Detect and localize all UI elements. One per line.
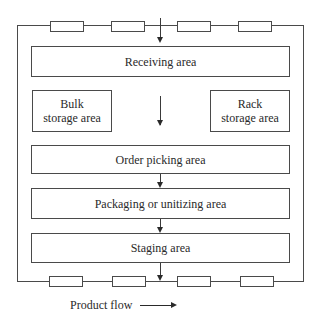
rack-storage-label-line2: storage area [221, 111, 279, 125]
building-wall-left [17, 25, 18, 282]
rack-storage-area-box: Rack storage area [210, 90, 290, 132]
building-wall-right [303, 25, 304, 282]
receiving-dock-door-2 [111, 21, 145, 32]
order-picking-area-label: Order picking area [116, 153, 206, 167]
shipping-dock-door-3 [177, 276, 211, 287]
bulk-storage-label-line1: Bulk [43, 97, 101, 111]
bulk-storage-label-line2: storage area [43, 111, 101, 125]
packaging-area-label: Packaging or unitizing area [95, 197, 227, 211]
shipping-dock-door-1 [49, 276, 83, 287]
staging-area-label: Staging area [131, 241, 191, 255]
receiving-area-box: Receiving area [31, 46, 290, 77]
right-arrow-icon [140, 302, 177, 309]
shipping-dock-door-4 [240, 276, 274, 287]
legend-label: Product flow [70, 298, 132, 313]
staging-area-box: Staging area [31, 233, 290, 263]
receiving-dock-door-3 [177, 21, 211, 32]
bulk-storage-area-box: Bulk storage area [32, 90, 112, 132]
rack-storage-label-line1: Rack [221, 97, 279, 111]
legend: Product flow [70, 298, 177, 313]
receiving-dock-door-4 [238, 21, 272, 32]
receiving-area-label: Receiving area [125, 55, 197, 69]
receiving-dock-door-1 [50, 21, 84, 32]
shipping-dock-door-2 [112, 276, 146, 287]
packaging-area-box: Packaging or unitizing area [31, 188, 290, 219]
order-picking-area-box: Order picking area [31, 145, 290, 174]
